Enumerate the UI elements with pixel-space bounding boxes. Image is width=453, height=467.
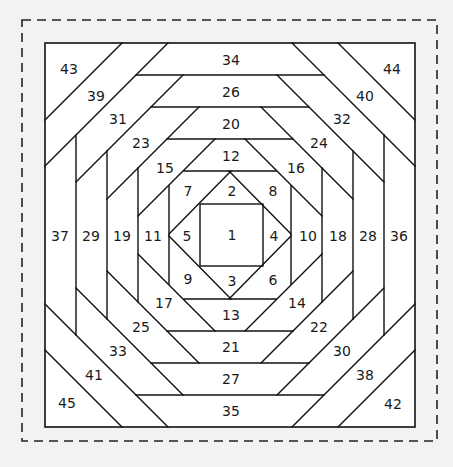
piece-number-34: 34 [222,52,240,68]
piece-number-2: 2 [228,183,237,199]
piece-number-12: 12 [222,148,240,164]
piece-number-43: 43 [60,61,78,77]
piece-number-18: 18 [329,228,347,244]
piece-number-25: 25 [132,319,150,335]
piece-number-45: 45 [58,395,76,411]
piece-number-37: 37 [51,228,69,244]
piece-number-29: 29 [82,228,100,244]
piece-number-30: 30 [333,343,351,359]
piece-number-36: 36 [390,228,408,244]
piece-number-10: 10 [299,228,317,244]
piece-number-33: 33 [109,343,127,359]
piece-number-44: 44 [383,61,401,77]
piece-number-6: 6 [269,272,278,288]
pineapple-block-svg: 1234567891011121314151617181920212223242… [0,0,453,467]
piece-number-14: 14 [288,295,306,311]
piece-number-9: 9 [184,271,193,287]
piece-number-35: 35 [222,403,240,419]
piece-number-27: 27 [222,371,240,387]
piece-number-4: 4 [270,228,279,244]
piece-number-1: 1 [228,227,237,243]
piece-number-28: 28 [359,228,377,244]
piece-number-32: 32 [333,111,351,127]
piece-number-19: 19 [113,228,131,244]
piece-number-26: 26 [222,84,240,100]
piece-number-17: 17 [155,295,173,311]
piece-number-31: 31 [109,111,127,127]
piece-number-5: 5 [183,228,192,244]
piece-number-7: 7 [184,183,193,199]
piece-number-38: 38 [356,367,374,383]
piece-number-42: 42 [384,396,402,412]
piece-number-40: 40 [356,88,374,104]
piece-number-11: 11 [144,228,162,244]
piece-number-23: 23 [132,135,150,151]
piece-number-8: 8 [269,183,278,199]
quilt-block-diagram: 1234567891011121314151617181920212223242… [0,0,453,467]
piece-number-13: 13 [222,307,240,323]
piece-number-16: 16 [287,160,305,176]
piece-number-41: 41 [85,367,103,383]
piece-number-39: 39 [87,88,105,104]
piece-number-21: 21 [222,339,240,355]
piece-number-15: 15 [156,160,174,176]
piece-number-3: 3 [228,273,237,289]
piece-number-22: 22 [310,319,328,335]
piece-number-24: 24 [310,135,328,151]
piece-number-20: 20 [222,116,240,132]
